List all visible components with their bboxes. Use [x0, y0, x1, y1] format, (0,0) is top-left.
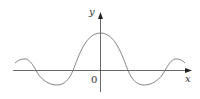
x-axis-label: x	[185, 73, 191, 84]
y-axis-arrow-icon	[98, 12, 103, 19]
y-axis-label: y	[88, 6, 95, 17]
function-curve	[15, 33, 185, 85]
graph: y x 0	[0, 0, 200, 99]
origin-label: 0	[91, 74, 97, 85]
